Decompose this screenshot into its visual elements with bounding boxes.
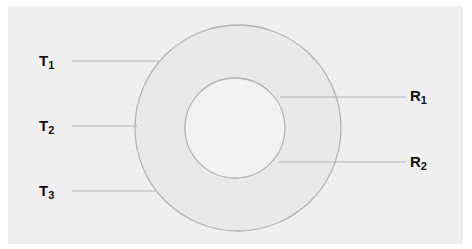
label-r2: R2 <box>410 153 427 172</box>
label-t2: T2 <box>39 117 54 136</box>
label-t1: T1 <box>39 52 54 71</box>
label-t3: T3 <box>39 182 54 201</box>
annulus-diagram: T1 T2 T3 R1 R2 <box>0 0 472 249</box>
label-r1: R1 <box>410 87 427 106</box>
inner-circle <box>185 78 285 178</box>
